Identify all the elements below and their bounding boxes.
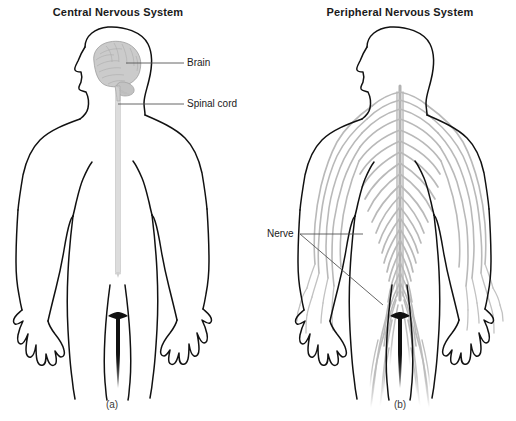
figure-illustration-canvas [0, 0, 516, 421]
callout-label-nerve: Nerve [267, 228, 294, 239]
callout-label-spinal-cord: Spinal cord [187, 98, 237, 109]
spinal-cord-graphic [116, 82, 121, 278]
pns-inner-thigh-shadow [390, 312, 410, 390]
panel-caption-a: (a) [106, 399, 118, 410]
callout-label-brain: Brain [187, 57, 210, 68]
cns-inner-thigh-shadow [108, 312, 128, 390]
panel-caption-b: (b) [394, 399, 406, 410]
panel-title-central-nervous-system: Central Nervous System [53, 6, 183, 18]
nervous-system-figure: Central Nervous System Peripheral Nervou… [0, 0, 516, 421]
brain-graphic [94, 41, 141, 101]
panel-title-peripheral-nervous-system: Peripheral Nervous System [327, 6, 474, 18]
